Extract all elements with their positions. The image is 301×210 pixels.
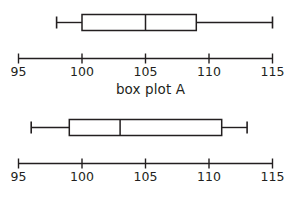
axis-tick-label: 115 xyxy=(261,169,285,184)
axis-tick-label: 110 xyxy=(197,64,221,79)
axis-tick-label: 100 xyxy=(70,64,94,79)
axis-tick-label: 100 xyxy=(70,169,94,184)
box-rect xyxy=(82,15,196,31)
box-plot-figure: 95100105110115 box plot A 95100105110115… xyxy=(0,0,301,210)
axis-tick-label: 105 xyxy=(134,64,158,79)
box-plot-b-graphic: 95100105110115 xyxy=(0,105,301,210)
box-plot-panel-b: 95100105110115 box plot B xyxy=(0,105,301,210)
axis-tick-label: 110 xyxy=(197,169,221,184)
axis-tick-label: 95 xyxy=(11,64,27,79)
box-plot-panel-a: 95100105110115 box plot A xyxy=(0,0,301,105)
box-rect xyxy=(69,120,221,136)
axis-tick-label: 95 xyxy=(11,169,27,184)
axis-tick-label: 115 xyxy=(261,64,285,79)
axis-tick-label: 105 xyxy=(134,169,158,184)
box-plot-a-caption: box plot A xyxy=(0,81,301,97)
